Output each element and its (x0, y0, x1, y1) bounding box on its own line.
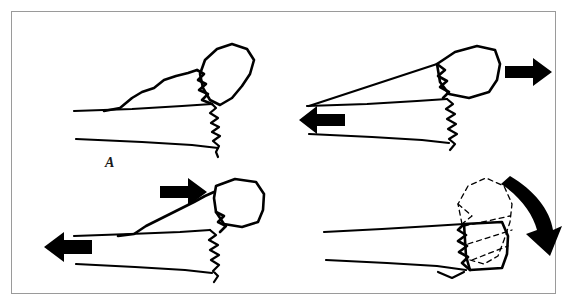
panel-d: D (312, 164, 562, 304)
panel-c: C (30, 164, 280, 304)
arrow-right (160, 178, 207, 206)
shaft-upper-cortex (324, 224, 464, 232)
shaft-lower-cortex (309, 134, 449, 143)
arrow-left (299, 106, 345, 134)
panel-d-drawing (312, 164, 562, 304)
shaft-lower-cortex (326, 260, 466, 270)
shaft-fracture-edge (209, 230, 219, 282)
figure-root: A (0, 0, 568, 307)
ghost-rotation-line-3 (472, 246, 508, 260)
shaft-upper-cortex (74, 104, 212, 111)
figure-frame: A (11, 11, 556, 294)
panel-b: B (297, 26, 557, 166)
traction-line (309, 64, 437, 106)
base-notch (438, 272, 464, 278)
panel-c-drawing (30, 164, 280, 304)
shaft-fracture-edge (210, 104, 220, 157)
shaft-lower-cortex (76, 139, 218, 148)
periosteal-wave (118, 192, 214, 236)
arrow-right (505, 58, 552, 86)
panel-a: A (42, 26, 292, 166)
panel-a-drawing (42, 26, 292, 166)
fragment-outline (200, 44, 254, 105)
ghost-rotation-line-2 (468, 230, 512, 244)
shaft-lower-cortex (76, 264, 212, 273)
panel-b-drawing (297, 26, 557, 166)
shaft-upper-cortex (74, 230, 210, 236)
